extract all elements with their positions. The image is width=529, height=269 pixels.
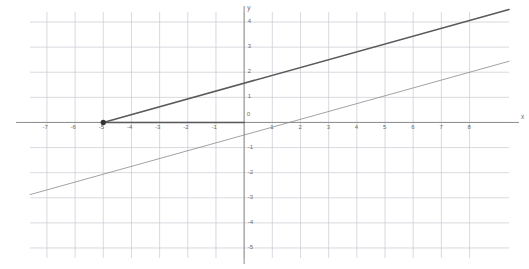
x-tick-label-8: 8 [468, 124, 471, 130]
y-tick-label-2: 2 [248, 68, 251, 74]
axis-lines [16, 6, 519, 264]
x-tick-label--5: -5 [99, 124, 104, 130]
graph-canvas: -7-6-5-4-3-2-1012345678-5-4-3-2-11234xy [0, 0, 529, 269]
coordinate-plane-svg [0, 0, 529, 269]
y-axis-label: y [247, 4, 250, 11]
x-tick-label--3: -3 [155, 124, 160, 130]
x-tick-label-3: 3 [327, 124, 330, 130]
x-tick-label-0: 0 [247, 111, 250, 117]
y-tick-label-3: 3 [248, 43, 251, 49]
x-tick-label-5: 5 [383, 124, 386, 130]
x-tick-label-4: 4 [355, 124, 358, 130]
y-tick-label--5: -5 [248, 244, 253, 250]
x-tick-label--2: -2 [183, 124, 188, 130]
x-axis-label: x [521, 113, 524, 120]
y-tick-label-4: 4 [248, 18, 251, 24]
plotted-lines [30, 9, 509, 194]
x-tick-label-7: 7 [439, 124, 442, 130]
x-tick-label-2: 2 [298, 124, 301, 130]
x-tick-label-1: 1 [270, 124, 273, 130]
x-tick-label--7: -7 [42, 124, 47, 130]
y-tick-label-1: 1 [248, 93, 251, 99]
y-tick-label--4: -4 [248, 219, 253, 225]
y-tick-label--2: -2 [248, 169, 253, 175]
x-tick-label--1: -1 [211, 124, 216, 130]
x-tick-label--6: -6 [71, 124, 76, 130]
x-tick-label--4: -4 [127, 124, 132, 130]
y-tick-label--1: -1 [248, 144, 253, 150]
x-tick-label-6: 6 [411, 124, 414, 130]
y-tick-label--3: -3 [248, 194, 253, 200]
line-thick-line [103, 9, 509, 122]
grid-lines [30, 12, 509, 258]
